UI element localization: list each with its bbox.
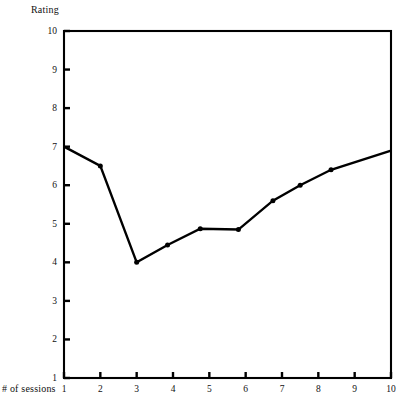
data-point [134,260,139,265]
series-line-0 [64,147,391,263]
data-point [329,167,334,172]
data-point [236,227,241,232]
data-point [198,226,203,231]
data-point [270,198,275,203]
data-point [298,183,303,188]
chart-container: Rating # of sessions 12345678910 1234567… [0,0,403,404]
data-point [98,163,103,168]
frame-rect [64,31,391,378]
data-series [64,147,391,263]
data-markers [98,163,334,264]
plot-frame [64,31,391,378]
data-point [165,242,170,247]
plot-area [0,0,403,404]
axis-ticks [64,31,391,378]
